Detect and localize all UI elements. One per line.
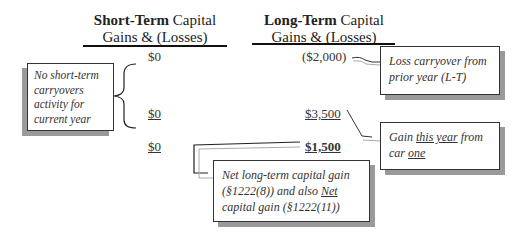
gain-this-year-box: Gain this year from car one <box>380 122 500 170</box>
net-long-term-box: Net long-term capital gain (§1222(8)) an… <box>213 160 370 222</box>
brace-icon <box>114 64 136 128</box>
loss-carryover-box: Loss carryover from prior year (L-T) <box>380 46 500 95</box>
short-term-note-box: No short-term carryovers activity for cu… <box>27 63 114 131</box>
